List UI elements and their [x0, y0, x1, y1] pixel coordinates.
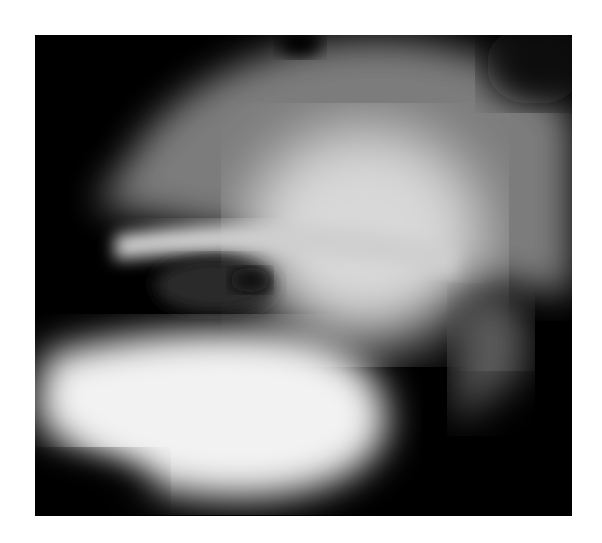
xray-rendering [35, 35, 572, 516]
xray-image [35, 35, 572, 516]
